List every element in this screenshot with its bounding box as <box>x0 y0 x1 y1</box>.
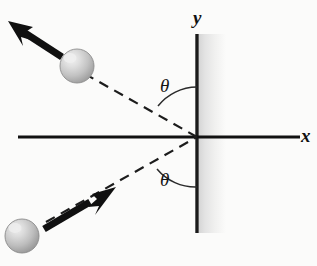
angle-label-lower: θ <box>160 170 169 189</box>
outgoing-ball <box>60 49 94 83</box>
outgoing-velocity-arrow <box>8 21 62 57</box>
y-axis-label: y <box>193 8 201 27</box>
angle-label-upper: θ <box>160 76 169 95</box>
incoming-dashed-path <box>46 137 197 222</box>
x-axis-label: x <box>301 126 311 145</box>
incoming-velocity-arrow <box>44 187 116 229</box>
incoming-ball <box>5 219 39 253</box>
physics-diagram-reflection: y x θ θ <box>0 0 317 266</box>
wall-shadow-band <box>199 34 226 233</box>
diagram-canvas <box>0 0 317 266</box>
